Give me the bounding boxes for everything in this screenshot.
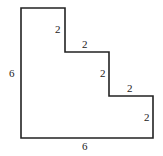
staircase-shape — [21, 8, 153, 138]
label-step1-horizontal: 2 — [82, 38, 88, 50]
label-step3-vertical: 2 — [144, 111, 150, 123]
label-left-side: 6 — [9, 67, 15, 79]
label-step2-vertical: 2 — [100, 67, 106, 79]
label-step2-horizontal: 2 — [127, 82, 133, 94]
staircase-diagram: 6 6 2 2 2 2 2 — [0, 0, 163, 156]
label-bottom-side: 6 — [82, 140, 88, 152]
label-step1-vertical: 2 — [55, 23, 61, 35]
